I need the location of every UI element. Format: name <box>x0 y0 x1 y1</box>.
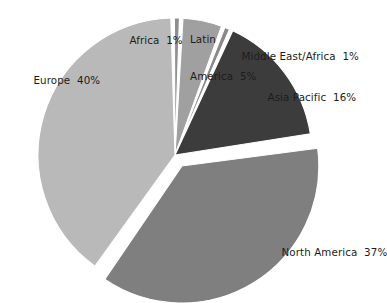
pie-label-middle-east-africa-text: Middle East/Africa 1% <box>242 50 359 62</box>
pie-label-north-america: North America 37% <box>268 234 387 271</box>
pie-label-africa: Africa 1% <box>116 22 183 59</box>
pie-label-africa-text: Africa 1% <box>130 34 183 46</box>
pie-label-middle-east-africa: Middle East/Africa 1% <box>228 38 359 75</box>
pie-label-asia-pacific-text: Asia Pacific 16% <box>268 91 357 103</box>
pie-label-europe: Europe 40% <box>20 62 100 99</box>
pie-label-asia-pacific: Asia Pacific 16% <box>254 79 356 116</box>
pie-label-europe-text: Europe 40% <box>34 74 101 86</box>
pie-label-north-america-text: North America 37% <box>282 246 387 258</box>
